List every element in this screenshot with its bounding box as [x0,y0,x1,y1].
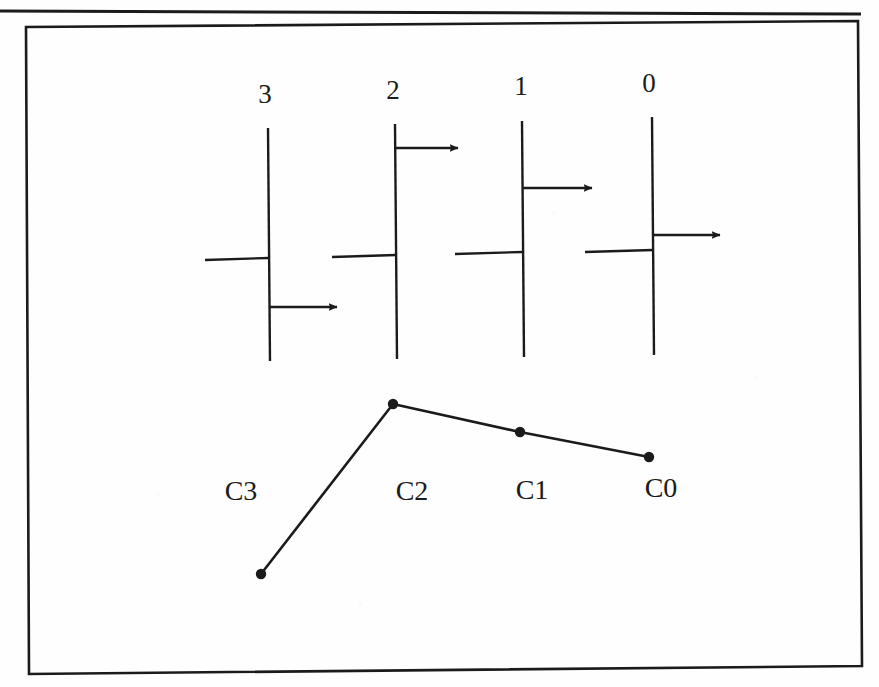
signal-crossbar-2 [332,255,396,257]
signal-line-2: 2 [332,75,458,359]
signal-crossbar-1 [455,252,523,254]
signal-crossbar-0 [585,250,653,252]
signal-line-1: 1 [455,71,592,357]
scanned-page: 3210 C3C2C1C0 [0,0,879,687]
carry-line [261,404,649,574]
signal-label-0: 0 [642,68,656,98]
figure-frame [26,21,862,674]
signal-crossbar-3 [205,258,269,260]
carry-label-C0: C0 [645,472,678,503]
carry-polyline-group: C3C2C1C0 [225,399,678,579]
figure-canvas: 3210 C3C2C1C0 [0,0,879,687]
carry-label-C3: C3 [225,475,258,506]
signal-line-0: 0 [585,68,720,355]
signal-label-1: 1 [514,71,528,101]
carry-point-C1 [515,427,525,437]
signal-label-3: 3 [258,79,272,109]
carry-label-C1: C1 [516,474,549,505]
top-page-rule [0,11,861,14]
signal-stem-3 [268,128,270,361]
signal-lines-group: 3210 [205,68,720,361]
signal-stem-2 [395,124,397,359]
signal-line-3: 3 [205,79,337,361]
carry-point-C3 [256,569,266,579]
signal-stem-1 [522,121,524,357]
carry-labels: C3C2C1C0 [225,472,678,506]
carry-point-C2 [388,399,398,409]
signal-label-2: 2 [386,75,400,105]
carry-point-C0 [644,452,654,462]
carry-label-C2: C2 [396,475,429,506]
carry-markers [256,399,654,579]
